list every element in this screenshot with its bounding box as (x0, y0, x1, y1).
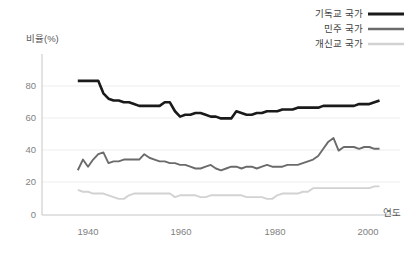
x-tick-labels: 1940 1960 1980 2000 (77, 226, 378, 237)
x-tick-1940: 1940 (77, 226, 98, 237)
legend-label-democratic: 민주 국가 (324, 23, 363, 34)
y-tick-0: 0 (31, 209, 36, 220)
y-tick-40: 40 (25, 144, 36, 155)
series-group (78, 81, 380, 199)
series-line-democratic (78, 138, 380, 170)
y-tick-60: 60 (25, 112, 36, 123)
x-axis-title: 연도 (383, 207, 401, 218)
series-line-christian (78, 81, 380, 119)
y-tick-80: 80 (25, 80, 36, 91)
y-tick-20: 20 (25, 176, 36, 187)
legend-label-christian: 기독교 국가 (315, 8, 363, 19)
x-tick-1980: 1980 (264, 226, 285, 237)
x-tick-1960: 1960 (170, 226, 191, 237)
y-tick-labels: 80 60 40 20 0 (25, 80, 36, 220)
legend-label-protestant: 개신교 국가 (315, 38, 363, 49)
line-chart: 80 60 40 20 0 1940 1960 1980 2000 비율(%) … (0, 0, 418, 253)
y-axis-title: 비율(%) (26, 33, 59, 44)
gridlines (42, 86, 400, 182)
x-tick-2000: 2000 (357, 226, 378, 237)
series-line-protestant (78, 186, 380, 199)
chart-canvas: 80 60 40 20 0 1940 1960 1980 2000 비율(%) … (0, 0, 418, 253)
legend: 기독교 국가 민주 국가 개신교 국가 (315, 8, 404, 49)
axes (42, 54, 400, 215)
